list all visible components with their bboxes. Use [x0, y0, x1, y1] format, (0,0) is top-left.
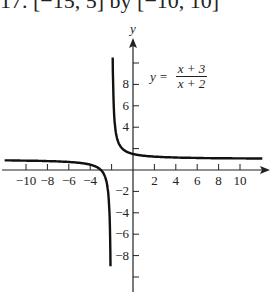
x-tick-label: 10: [234, 173, 247, 188]
x-tick-label: 4: [173, 173, 180, 188]
x-tick-label: 8: [215, 173, 222, 188]
equation-numerator: x + 3: [176, 62, 208, 77]
x-tick-label: 6: [194, 173, 201, 188]
graph: y−10−8−6−4246810−8−6−4−2468: [0, 0, 275, 296]
equation-fraction: x + 3 x + 2: [176, 62, 208, 91]
y-tick-label: −6: [115, 226, 129, 241]
y-tick-label: 8: [123, 76, 130, 91]
y-tick-label: −8: [115, 248, 129, 263]
x-tick-label: −8: [40, 173, 54, 188]
y-tick-label: 6: [123, 98, 130, 113]
x-tick-label: −10: [16, 173, 36, 188]
equation-lhs: y =: [150, 69, 168, 85]
y-tick-label: −4: [115, 205, 129, 220]
y-tick-label: −2: [115, 183, 129, 198]
equation-denominator: x + 2: [176, 77, 208, 91]
x-tick-label: −6: [62, 173, 76, 188]
x-tick-label: −4: [83, 173, 97, 188]
x-tick-label: 2: [151, 173, 158, 188]
y-tick-label: 4: [123, 119, 130, 134]
y-axis-label: y: [128, 21, 136, 36]
equation-label: y = x + 3 x + 2: [150, 62, 207, 91]
